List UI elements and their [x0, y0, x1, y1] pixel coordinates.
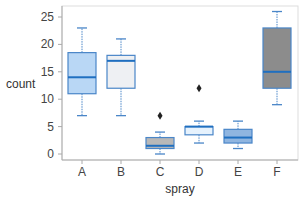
y-axis: 0510152025	[41, 10, 62, 161]
iqr-box	[263, 28, 291, 88]
box-F	[263, 12, 291, 105]
outlier-marker	[197, 84, 202, 92]
x-tick-label: C	[156, 165, 165, 179]
y-tick-label: 10	[41, 92, 55, 106]
y-tick-label: 20	[41, 37, 55, 51]
x-tick-label: B	[117, 165, 125, 179]
box-A	[68, 28, 96, 116]
y-axis-title: count	[6, 77, 36, 91]
x-tick-label: F	[273, 165, 280, 179]
x-tick-label: A	[78, 165, 86, 179]
y-tick-label: 5	[47, 120, 54, 134]
box-E	[224, 121, 252, 148]
y-tick-label: 25	[41, 10, 55, 24]
iqr-box	[185, 127, 213, 135]
iqr-box	[224, 129, 252, 143]
x-axis: ABCDEF	[78, 160, 281, 179]
iqr-box	[146, 138, 174, 149]
outlier-marker	[158, 112, 163, 120]
y-tick-label: 15	[41, 65, 55, 79]
box-plot-chart: 0510152025 ABCDEF count spray	[0, 0, 305, 203]
y-tick-label: 0	[47, 147, 54, 161]
x-tick-label: E	[234, 165, 242, 179]
box-C	[146, 112, 174, 154]
x-axis-title: spray	[165, 182, 194, 196]
x-tick-label: D	[195, 165, 204, 179]
boxes	[68, 12, 291, 154]
iqr-box	[68, 53, 96, 94]
box-D	[185, 84, 213, 143]
box-B	[107, 39, 135, 116]
